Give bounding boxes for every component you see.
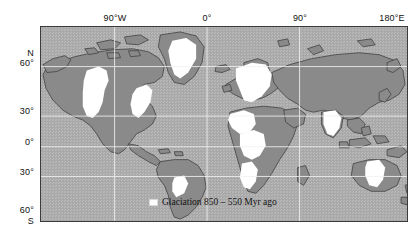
land-indonesia-2 — [373, 136, 389, 144]
glaciation-swatch — [149, 199, 158, 206]
land-iceland — [215, 65, 230, 73]
axis-label-latitude-0: 0° — [6, 137, 34, 147]
world-map[interactable]: Glaciation 850 – 550 Myr ago — [40, 26, 408, 222]
landmass-layer — [43, 32, 407, 219]
axis-label-longitude-90e: 90° — [293, 13, 307, 23]
land-arctic-island-5 — [129, 51, 141, 57]
land-novaya-zemlya — [308, 45, 324, 55]
land-caribbean-1 — [158, 149, 170, 154]
land-uk — [222, 84, 232, 92]
land-new-zealand-1 — [405, 183, 407, 193]
land-arctic-island-2 — [125, 35, 149, 45]
axis-label-latitude-60s: 60° — [6, 205, 34, 215]
axis-label-latitude-30s: 30° — [6, 167, 34, 177]
legend-label: Glaciation 850 – 550 Myr ago — [162, 197, 277, 207]
land-arctic-siberia — [357, 39, 375, 47]
land-arctic-island-1 — [97, 40, 121, 50]
axis-label-latitude-30n: 30° — [6, 106, 34, 116]
land-svalbard — [278, 39, 290, 47]
axis-label-hemisphere-south: S — [6, 216, 34, 226]
map-legend: Glaciation 850 – 550 Myr ago — [149, 197, 277, 207]
axis-label-longitude-0: 0° — [202, 13, 211, 23]
map-layers — [41, 27, 407, 221]
axis-label-longitude-90w: 90°W — [104, 13, 127, 23]
axis-label-latitude-60n: 60° — [6, 58, 34, 68]
map-figure: 90°W 0° 90° 180°E N 60° 30° 0° 30° 60° S — [0, 0, 420, 240]
land-new-zealand-2 — [401, 197, 407, 205]
axis-label-longitude-180e: 180°E — [379, 13, 405, 23]
land-indonesia-1 — [349, 138, 371, 148]
land-philippines — [361, 126, 371, 136]
axis-label-hemisphere-north: N — [6, 48, 34, 58]
land-caribbean-2 — [174, 152, 183, 156]
land-new-guinea — [387, 146, 407, 158]
land-arctic-island-4 — [107, 53, 121, 59]
